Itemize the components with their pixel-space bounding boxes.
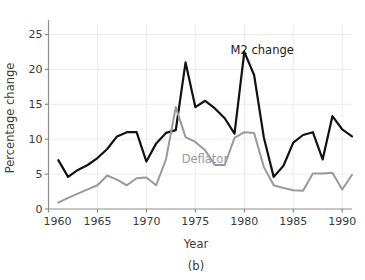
series-lines <box>58 52 352 203</box>
gridlines <box>49 24 353 209</box>
x-tick-label: 1960 <box>44 215 72 228</box>
y-axis-title: Percentage change <box>3 63 17 174</box>
y-tick-label: 10 <box>29 133 43 146</box>
x-axis-title: Year <box>183 237 209 251</box>
annotation-deflator: Deflator <box>182 152 229 166</box>
axis-lines <box>45 20 352 213</box>
x-tick-label: 1980 <box>230 215 258 228</box>
x-tick-label: 1985 <box>279 215 307 228</box>
y-tick-label: 20 <box>29 63 43 76</box>
y-tick-labels: 0510152025 <box>29 28 43 216</box>
x-tick-labels: 1960196519701975198019851990 <box>44 215 357 228</box>
chart-figure: 0510152025 1960196519701975198019851990 … <box>0 0 365 280</box>
y-tick-label: 5 <box>36 168 43 181</box>
x-tick-label: 1990 <box>328 215 356 228</box>
y-tick-label: 0 <box>36 203 43 216</box>
x-tick-label: 1975 <box>181 215 209 228</box>
x-tick-label: 1965 <box>83 215 111 228</box>
line-chart-svg: 0510152025 1960196519701975198019851990 … <box>0 0 365 280</box>
y-tick-label: 25 <box>29 28 43 41</box>
y-tick-label: 15 <box>29 98 43 111</box>
panel-caption: (b) <box>188 259 204 273</box>
x-tick-label: 1970 <box>132 215 160 228</box>
annotation-m2-change: M2 change <box>231 43 294 57</box>
